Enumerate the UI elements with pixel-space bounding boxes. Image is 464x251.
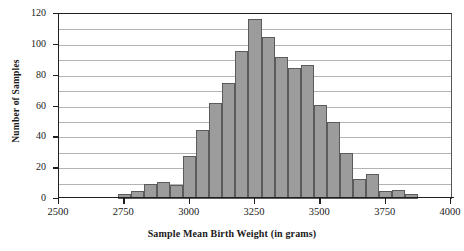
x-tick-label: 3000 bbox=[159, 206, 219, 217]
x-tick-mark bbox=[385, 198, 386, 204]
histogram-bar bbox=[222, 83, 235, 199]
x-tick-mark bbox=[450, 198, 451, 204]
histogram-bar bbox=[301, 65, 314, 199]
y-tick-label: 100 bbox=[12, 39, 46, 49]
histogram-figure: Number of Samples 020406080100120 250027… bbox=[0, 0, 464, 251]
histogram-bar bbox=[327, 122, 340, 199]
y-tick-label: 60 bbox=[12, 101, 46, 111]
y-tick-mark bbox=[53, 106, 58, 107]
histogram-bar bbox=[183, 156, 196, 199]
histogram-bar bbox=[314, 105, 327, 199]
y-tick-mark bbox=[53, 136, 58, 137]
x-tick-mark bbox=[123, 198, 124, 204]
x-tick-label: 3750 bbox=[355, 206, 415, 217]
x-axis-line bbox=[58, 197, 454, 198]
y-tick-mark bbox=[53, 75, 58, 76]
y-tick-label: 0 bbox=[12, 193, 46, 203]
y-tick-mark bbox=[53, 44, 58, 45]
y-tick-label: 80 bbox=[12, 70, 46, 80]
x-tick-mark bbox=[189, 198, 190, 204]
y-tick-mark bbox=[53, 167, 58, 168]
x-tick-label: 4000 bbox=[420, 206, 464, 217]
x-axis-title: Sample Mean Birth Weight (in grams) bbox=[0, 228, 464, 239]
histogram-bar bbox=[366, 174, 379, 199]
x-tick-mark bbox=[254, 198, 255, 204]
x-tick-label: 2500 bbox=[28, 206, 88, 217]
histogram-bar bbox=[235, 51, 248, 199]
y-tick-label: 120 bbox=[12, 8, 46, 18]
y-tick-label: 20 bbox=[12, 162, 46, 172]
x-tick-label: 2750 bbox=[93, 206, 153, 217]
y-tick-mark bbox=[53, 13, 58, 14]
histogram-bar bbox=[275, 57, 288, 199]
histogram-bar bbox=[353, 179, 366, 199]
x-tick-label: 3250 bbox=[224, 206, 284, 217]
histogram-bar bbox=[196, 130, 209, 199]
histogram-bar bbox=[288, 68, 301, 199]
histogram-bar bbox=[209, 103, 222, 199]
x-tick-mark bbox=[319, 198, 320, 204]
histogram-bar bbox=[248, 19, 261, 199]
y-tick-label: 40 bbox=[12, 131, 46, 141]
x-tick-label: 3500 bbox=[289, 206, 349, 217]
histogram-bar bbox=[340, 153, 353, 199]
bars bbox=[59, 14, 451, 199]
plot-area bbox=[58, 13, 452, 199]
x-tick-mark bbox=[58, 198, 59, 204]
histogram-bar bbox=[262, 37, 275, 199]
